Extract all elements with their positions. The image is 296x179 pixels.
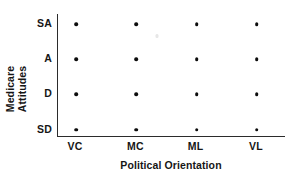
data-point (74, 57, 78, 61)
x-tick-label-mc: MC (127, 140, 144, 152)
data-point (195, 22, 199, 26)
y-axis-tick-labels: SAADSD (26, 0, 52, 179)
scatter-plot-figure: Medicare Attitudes SAADSD VCMCMLVL Polit… (0, 0, 296, 179)
x-axis-tick-labels: VCMCMLVL (57, 140, 285, 154)
x-tick-label-ml: ML (188, 140, 204, 152)
x-tick-label-vl: VL (249, 140, 263, 152)
data-point (74, 22, 78, 26)
scan-artifact (156, 34, 159, 38)
plot-area (57, 14, 285, 137)
data-point (195, 128, 199, 132)
data-point (195, 93, 199, 97)
data-point (255, 128, 259, 132)
data-point (74, 93, 78, 97)
data-point (195, 57, 199, 61)
x-axis-title: Political Orientation (57, 159, 285, 171)
y-tick-label-sd: SD (26, 123, 52, 135)
x-tick-label-vc: VC (68, 140, 83, 152)
data-point (135, 22, 139, 26)
data-point (255, 93, 259, 97)
y-tick-label-sa: SA (26, 17, 52, 29)
data-point (255, 22, 259, 26)
data-point (135, 128, 139, 132)
data-point (255, 57, 259, 61)
data-point (74, 128, 78, 132)
data-point (135, 93, 139, 97)
data-point (135, 57, 139, 61)
y-tick-label-a: A (26, 52, 52, 64)
y-tick-label-d: D (26, 87, 52, 99)
